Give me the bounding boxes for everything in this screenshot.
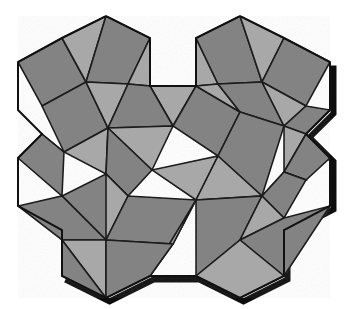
tessellation-canvas: [0, 0, 348, 309]
tessellation-figure: g: [0, 0, 348, 309]
